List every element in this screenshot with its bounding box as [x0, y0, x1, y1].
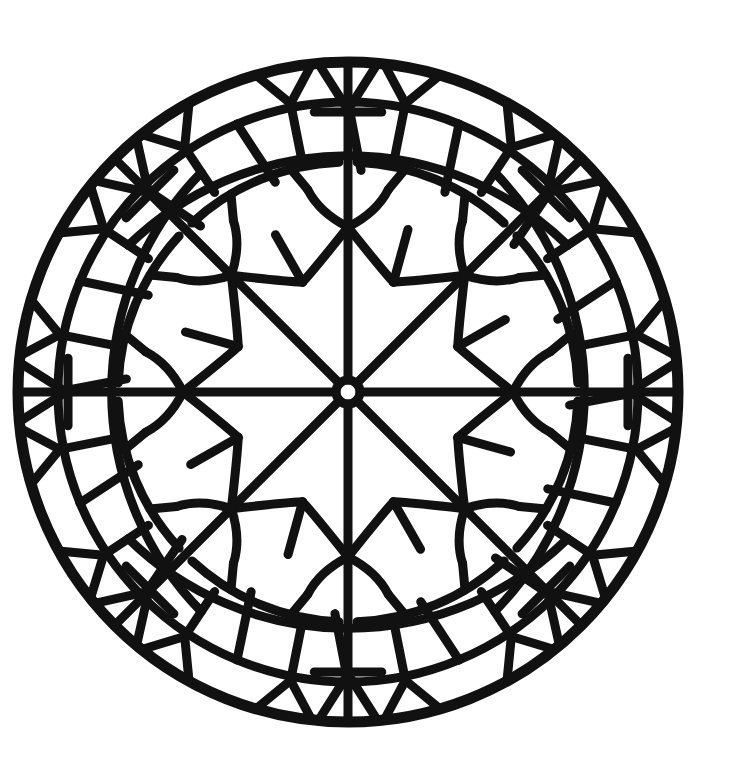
petal-line	[288, 502, 303, 555]
triangle-edge	[592, 186, 605, 229]
petal-arc	[465, 503, 520, 509]
cell-divider	[64, 335, 113, 345]
petal-arc	[348, 190, 388, 227]
cell-divider	[395, 627, 405, 676]
petal-arc	[177, 503, 232, 509]
cell-divider	[64, 439, 113, 449]
triangle-edge	[592, 229, 637, 233]
petal-line	[458, 319, 506, 346]
cell-divider	[395, 108, 405, 157]
cell-divider	[583, 439, 632, 449]
cell-divider	[291, 108, 301, 157]
petal-arc	[146, 392, 183, 432]
petal-line	[185, 332, 238, 347]
triangle-edge	[59, 551, 104, 555]
triangle-edge	[507, 636, 511, 681]
petal-arc	[513, 392, 550, 432]
petal-arc	[308, 190, 348, 227]
star-edge	[183, 392, 238, 437]
petal-arc	[308, 557, 348, 594]
triangle-edge	[185, 636, 189, 681]
petal-arc	[348, 557, 388, 594]
triangle-edge	[59, 229, 104, 233]
petal-arc	[513, 352, 550, 392]
star-edge	[348, 227, 393, 282]
petal-arc	[459, 221, 465, 276]
petal-arc	[146, 352, 183, 392]
triangle-edge	[256, 680, 291, 709]
triangle-edge	[592, 555, 605, 598]
petal-line	[393, 229, 408, 282]
petal-arc	[231, 221, 237, 276]
star-edge	[348, 502, 393, 557]
star-edge	[458, 347, 513, 392]
mandala-svg	[0, 0, 736, 783]
star-edge	[458, 392, 513, 437]
triangle-edge	[256, 75, 291, 104]
triangle-edge	[636, 449, 665, 484]
star-edge	[303, 502, 348, 557]
triangle-edge	[636, 300, 665, 335]
petal-arc	[177, 275, 232, 281]
triangle-edge	[185, 103, 189, 148]
triangle-edge	[90, 555, 103, 598]
petal-line	[275, 235, 302, 283]
triangle-edge	[592, 551, 637, 555]
triangle-edge	[142, 134, 185, 147]
triangle-edge	[507, 103, 511, 148]
triangle-edge	[405, 680, 440, 709]
star-edge	[303, 227, 348, 282]
mandala-lines	[18, 62, 678, 722]
petal-line	[458, 437, 511, 452]
triangle-edge	[31, 300, 60, 335]
triangle-edge	[511, 636, 554, 649]
triangle-edge	[405, 75, 440, 104]
petal-line	[191, 437, 239, 464]
star-edge	[183, 347, 238, 392]
cell-divider	[583, 335, 632, 345]
petal-arc	[465, 275, 520, 281]
petal-line	[393, 502, 420, 550]
triangle-edge	[511, 134, 554, 147]
triangle-edge	[142, 636, 185, 649]
petal-arc	[459, 509, 465, 564]
triangle-edge	[31, 449, 60, 484]
petal-arc	[231, 509, 237, 564]
triangle-edge	[90, 186, 103, 229]
cell-divider	[291, 627, 301, 676]
